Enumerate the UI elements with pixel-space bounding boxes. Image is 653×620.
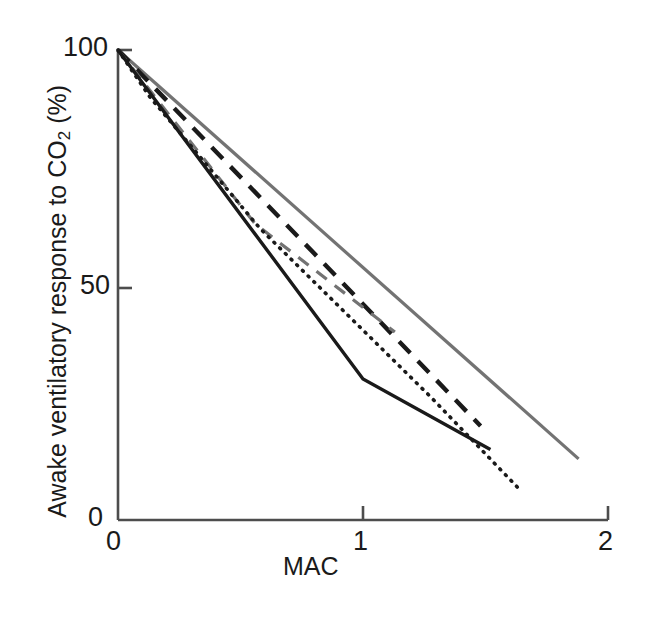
y-tick-label-0: 0 (88, 502, 103, 533)
series-dotted (118, 50, 517, 487)
y-axis-label-subscript: 2 (55, 131, 74, 140)
y-tick-label-50: 50 (80, 270, 110, 301)
x-tick-label-2: 2 (598, 526, 613, 557)
x-tick-label-0: 0 (106, 526, 121, 557)
series-gray-solid (118, 50, 579, 459)
axes (118, 50, 608, 520)
data-series-group (118, 50, 579, 487)
y-tick-label-100: 100 (63, 32, 108, 63)
x-axis-label: MAC (283, 552, 339, 581)
y-axis-label-prefix: Awake ventilatory response to CO (43, 140, 71, 518)
chart-figure: Awake ventilatory response to CO2 (%) MA… (0, 0, 653, 620)
series-black-dashed (118, 50, 481, 426)
y-axis-label: Awake ventilatory response to CO2 (%) (43, 66, 76, 536)
x-tick-label-1: 1 (353, 526, 368, 557)
y-axis-label-suffix: (%) (43, 85, 71, 131)
